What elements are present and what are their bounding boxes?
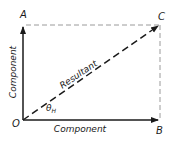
resultant-label: Resultant xyxy=(58,58,100,91)
point-label-a: A xyxy=(19,9,27,20)
resultant-arrow xyxy=(23,26,158,120)
vertical-component-label: Component xyxy=(8,45,18,98)
vector-diagram: A C O B Component Component Resultant θH xyxy=(0,0,177,142)
horizontal-component-label: Component xyxy=(54,124,107,134)
angle-label: θH xyxy=(46,103,57,114)
point-label-c: C xyxy=(158,11,165,22)
point-label-b: B xyxy=(156,125,163,136)
point-label-o: O xyxy=(12,118,20,129)
angle-subscript: H xyxy=(52,107,57,114)
